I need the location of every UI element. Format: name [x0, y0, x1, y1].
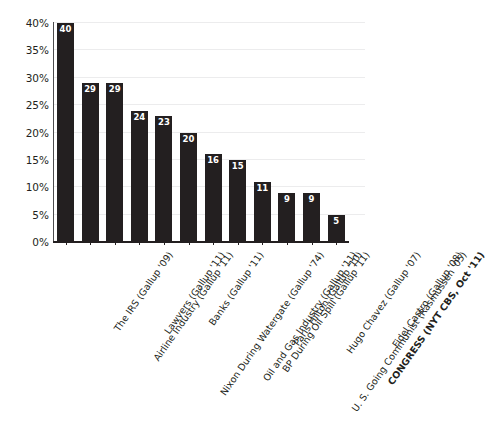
x-category-label: The IRS (Gallup '09) — [112, 250, 175, 333]
x-category-label: Paris Hilton (Gallup '10) — [292, 250, 365, 348]
x-category-label: BP During Oil Spill (Gallup '11) — [281, 250, 372, 374]
